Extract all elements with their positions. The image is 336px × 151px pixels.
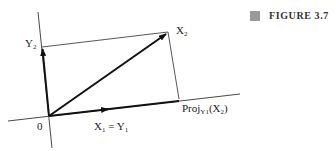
x2-label: X2 bbox=[176, 25, 187, 38]
origin-text: 0 bbox=[37, 120, 43, 132]
x1-base: X bbox=[94, 120, 102, 132]
x1-equals-y1-label: X1 = Y1 bbox=[94, 121, 128, 134]
equals-sign: = bbox=[105, 120, 116, 132]
y2-label: Y2 bbox=[25, 38, 36, 51]
vector-projection-diagram bbox=[0, 0, 336, 151]
y2-sub: 2 bbox=[33, 43, 37, 51]
y2-vector-arrow bbox=[43, 49, 50, 116]
proj-base: Proj bbox=[182, 102, 200, 114]
projection-label: ProjY1(X2) bbox=[182, 103, 228, 116]
y2-base: Y bbox=[25, 37, 33, 49]
caption-marker-icon bbox=[250, 11, 260, 21]
projection-drop-line bbox=[168, 32, 179, 99]
figure-caption: FIGURE 3.7 bbox=[250, 10, 329, 21]
proj-arg-open: (X bbox=[209, 102, 221, 114]
proj-arg-close: ) bbox=[224, 102, 228, 114]
figure-caption-text: FIGURE 3.7 bbox=[269, 10, 329, 21]
x2-sub: 2 bbox=[184, 30, 188, 38]
x2-base: X bbox=[176, 24, 184, 36]
origin-label: 0 bbox=[37, 121, 43, 132]
y1-base: Y bbox=[117, 120, 125, 132]
projection-segment bbox=[105, 101, 179, 110]
y1-sub: 1 bbox=[125, 126, 129, 134]
proj-sub: Y1 bbox=[200, 108, 209, 116]
